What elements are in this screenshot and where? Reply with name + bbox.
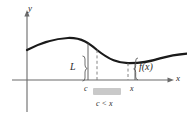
c-tick-label: c [84, 85, 88, 93]
x-axis-label: x [176, 74, 180, 83]
relation-label: c < x [96, 100, 113, 108]
figure-canvas [0, 0, 187, 121]
x-tick-label: x [130, 85, 134, 93]
limit-L-label: L [70, 62, 76, 72]
y-axis-label: y [28, 4, 32, 13]
fx-brace-icon [134, 58, 138, 80]
x-axis-arrowhead-icon [168, 77, 175, 82]
interval-highlight-bar [93, 88, 121, 95]
limit-figure: y x L f(x) c x c < x [0, 0, 187, 121]
L-brace-icon [83, 56, 88, 81]
function-value-label: f(x) [139, 62, 153, 72]
function-curve [27, 38, 187, 63]
